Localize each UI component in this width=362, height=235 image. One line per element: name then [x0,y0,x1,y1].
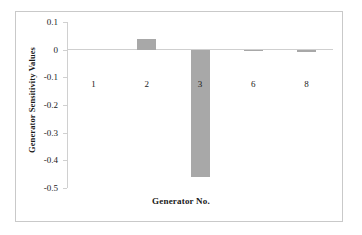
x-axis-title: Generator No. [0,196,362,206]
y-tick-label: 0.1 [0,17,58,27]
bar [191,50,210,177]
x-tick-label: 8 [304,79,309,89]
x-tick-label: 1 [91,79,96,89]
y-tick-label: -0.5 [0,183,58,193]
x-tick-label: 3 [198,79,203,89]
y-tick-mark [63,188,67,189]
bar [297,50,316,52]
bar [244,50,263,52]
y-tick-label: -0.4 [0,155,58,165]
y-tick-label: -0.2 [0,100,58,110]
x-tick-label: 6 [251,79,256,89]
chart-figure: Generator Sensitivity Values Generator N… [0,0,362,235]
y-tick-label: 0 [0,45,58,55]
y-tick-label: -0.3 [0,128,58,138]
y-tick-label: -0.1 [0,72,58,82]
plot-area: 12368 [67,22,333,188]
bar [137,39,156,50]
x-tick-label: 2 [145,79,150,89]
